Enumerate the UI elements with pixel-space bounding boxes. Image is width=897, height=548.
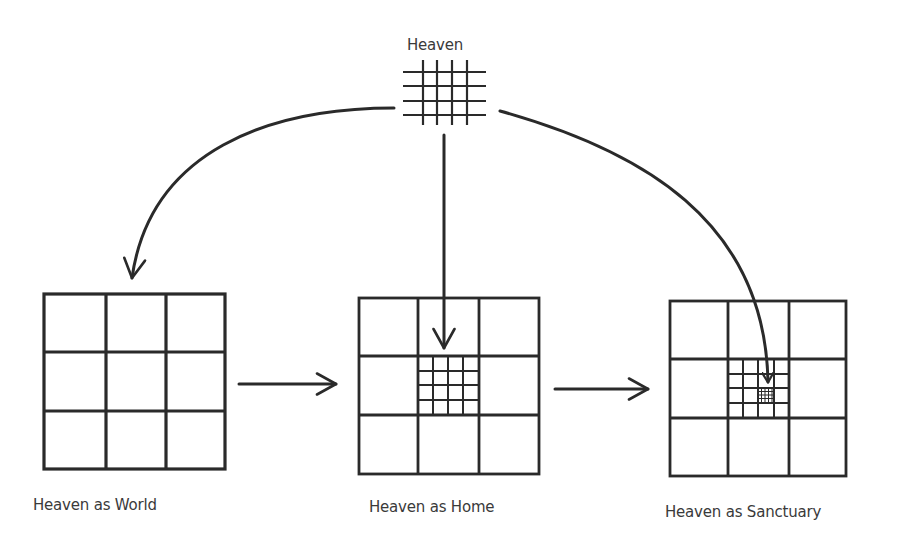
- arrow-heaven-to-world: [132, 108, 394, 278]
- diagram-canvas: [0, 0, 897, 548]
- heaven-label: Heaven: [407, 36, 463, 54]
- heaven-grid-icon: [403, 60, 486, 125]
- heaven-as-sanctuary-label: Heaven as Sanctuary: [665, 503, 821, 521]
- home-subgrid: [418, 356, 479, 415]
- sanctuary-subgrid: [728, 359, 789, 418]
- world-grid: [44, 294, 225, 469]
- heaven-as-world-label: Heaven as World: [33, 496, 157, 514]
- sanctuary-nested-subgrid: [758, 388, 774, 403]
- heaven-as-home-label: Heaven as Home: [369, 498, 494, 516]
